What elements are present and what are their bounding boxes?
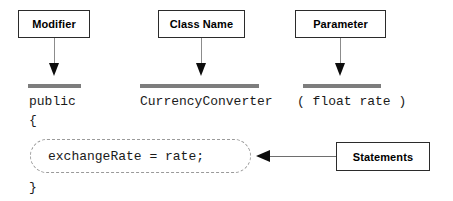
callout-label-parameter: Parameter xyxy=(313,18,368,30)
callout-box-parameter[interactable]: Parameter xyxy=(295,10,386,38)
callout-box-statements[interactable]: Statements xyxy=(336,142,430,171)
code-open-brace: { xyxy=(29,113,37,128)
highlight-bar-class-name xyxy=(140,84,259,88)
callout-box-modifier[interactable]: Modifier xyxy=(18,10,90,38)
code-statement: exchangeRate = rate; xyxy=(48,149,204,164)
callout-box-class-name[interactable]: Class Name xyxy=(158,10,245,38)
callout-label-statements: Statements xyxy=(353,151,413,163)
code-token-class-name: CurrencyConverter xyxy=(140,94,273,109)
connector-line-parameter xyxy=(340,38,341,64)
code-token-modifier: public xyxy=(29,94,76,109)
highlight-bar-modifier xyxy=(28,84,81,88)
callout-label-class-name: Class Name xyxy=(170,18,233,30)
connector-line-class-name xyxy=(201,38,202,64)
connector-line-modifier xyxy=(54,38,55,64)
arrowhead-down-class-name xyxy=(196,63,206,76)
callout-label-modifier: Modifier xyxy=(32,18,76,30)
arrowhead-down-parameter xyxy=(335,63,345,76)
connector-line-statements xyxy=(270,156,336,157)
highlight-bar-parameter xyxy=(303,84,381,88)
arrowhead-down-modifier xyxy=(49,63,59,76)
code-close-brace: } xyxy=(29,180,37,195)
arrowhead-left-statements xyxy=(256,150,270,162)
diagram-canvas: Modifier Class Name Parameter public Cur… xyxy=(0,0,453,201)
code-token-parameter: ( float rate ) xyxy=(297,94,406,109)
